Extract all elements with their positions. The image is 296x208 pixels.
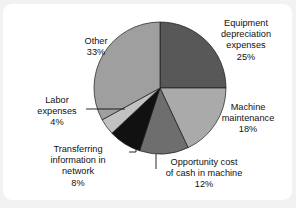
label-transferring-information: Transferringinformation innetwork8% [50, 144, 105, 188]
chart-card: Equipmentdepreciationexpenses25%Machinem… [3, 4, 292, 200]
label-machine-maintenance: Machinemaintenance18% [222, 102, 275, 134]
pie-slice-equipment [160, 22, 226, 88]
pie-slices [94, 22, 226, 154]
label-labor-expenses: Laborexpenses4% [37, 95, 77, 127]
label-opportunity-cost: Opportunity costof cash in machine12% [166, 157, 243, 189]
label-other: Other33% [85, 36, 108, 57]
pie-chart: Equipmentdepreciationexpenses25%Machinem… [3, 4, 292, 200]
label-equipment: Equipmentdepreciationexpenses25% [221, 18, 271, 62]
